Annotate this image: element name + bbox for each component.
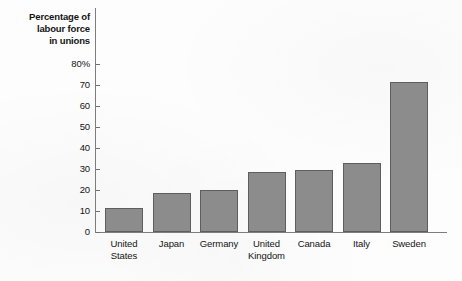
y-axis-title-line-3: in unions — [2, 35, 90, 47]
y-axis-tick-label-text: 40 — [36, 143, 90, 153]
y-axis-title: Percentage of labour force in unions — [2, 11, 90, 48]
y-axis-tick-label-text: 0 — [36, 227, 90, 237]
y-axis-tick-label: 50 — [36, 122, 90, 132]
y-axis-tick-label-text: 70 — [36, 80, 90, 90]
y-axis-title-line-2: labour force — [2, 23, 90, 35]
y-axis-tick-mark — [96, 127, 100, 128]
x-axis-line — [95, 232, 447, 233]
bar — [248, 172, 286, 232]
bar-chart-figure: Percentage of labour force in unions 010… — [0, 0, 462, 281]
y-axis-tick-label: 70 — [36, 80, 90, 90]
y-axis-tick-label-text: 10 — [36, 206, 90, 216]
y-axis-tick-mark — [96, 232, 100, 233]
bar — [153, 193, 191, 232]
y-axis-tick-label-text: 50 — [36, 122, 90, 132]
x-axis-category-label: Sweden — [379, 238, 439, 250]
y-axis-tick-label: 80% — [36, 59, 90, 69]
y-axis-tick-mark — [96, 169, 100, 170]
bar — [343, 163, 381, 232]
y-axis-tick-label: 40 — [36, 143, 90, 153]
bar — [105, 208, 143, 232]
y-axis-tick-label-text: 60 — [36, 101, 90, 111]
y-axis-tick-label: 10 — [36, 206, 90, 216]
bar — [390, 82, 428, 232]
y-axis-tick-label: 30 — [36, 164, 90, 174]
y-axis-tick-label-text: 20 — [36, 185, 90, 195]
y-axis-tick-mark — [96, 190, 100, 191]
y-axis-tick-label-text: 30 — [36, 164, 90, 174]
y-axis-tick-mark — [96, 64, 100, 65]
y-axis-tick-mark — [96, 148, 100, 149]
y-axis-tick-label: 60 — [36, 101, 90, 111]
y-axis-tick-mark — [96, 106, 100, 107]
y-axis-tick-label: 20 — [36, 185, 90, 195]
y-axis-tick-label-text: 80% — [36, 59, 90, 69]
bar — [200, 190, 238, 232]
y-axis-line — [95, 8, 96, 233]
bar — [295, 170, 333, 232]
y-axis-tick-label: 0 — [36, 227, 90, 237]
y-axis-tick-mark — [96, 211, 100, 212]
y-axis-title-line-1: Percentage of — [2, 11, 90, 23]
y-axis-tick-mark — [96, 85, 100, 86]
